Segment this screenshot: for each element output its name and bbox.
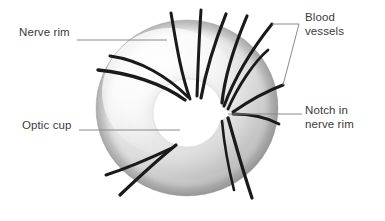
label-nerve-rim: Nerve rim (19, 26, 70, 40)
label-blood-vessels-line1: Blood (305, 11, 344, 25)
label-blood-vessels: Blood vessels (305, 11, 344, 38)
leader-blood-vessels (272, 24, 299, 85)
label-nerve-rim-text: Nerve rim (19, 26, 70, 38)
label-optic-cup: Optic cup (22, 119, 71, 133)
label-notch-line2: nerve rim (305, 118, 354, 132)
label-notch-in-nerve-rim: Notch in nerve rim (305, 104, 354, 131)
optic-disc-figure: Nerve rim Optic cup Blood vessels Notch … (0, 0, 385, 221)
label-blood-vessels-line2: vessels (305, 25, 344, 39)
label-optic-cup-text: Optic cup (22, 119, 71, 131)
label-notch-line1: Notch in (305, 104, 354, 118)
